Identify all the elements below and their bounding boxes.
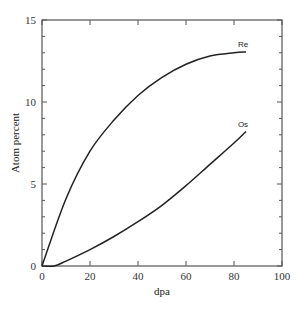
y-tick-label: 5	[31, 178, 37, 190]
series-label-os: Os	[238, 120, 248, 129]
y-axis-label: Atom percent	[9, 113, 21, 173]
x-tick-label: 40	[133, 270, 145, 282]
x-tick-label: 60	[181, 270, 193, 282]
x-axis-label: dpa	[154, 285, 170, 297]
series-line-os	[42, 132, 246, 267]
y-tick-label: 0	[31, 260, 37, 272]
series-labels: ReOs	[238, 40, 249, 129]
series-lines	[42, 52, 246, 266]
x-tick-label: 80	[229, 270, 241, 282]
x-tick-label: 0	[39, 270, 45, 282]
plot-border	[42, 20, 282, 266]
series-label-re: Re	[238, 40, 249, 49]
chart: 020406080100051015 ReOs dpa Atom percent	[0, 0, 303, 312]
x-tick-label: 100	[274, 270, 291, 282]
x-tick-label: 20	[85, 270, 97, 282]
tick-labels: 020406080100051015	[25, 14, 291, 282]
y-tick-label: 10	[25, 96, 37, 108]
axis-ticks	[42, 20, 282, 266]
plot-frame	[42, 20, 282, 266]
y-tick-label: 15	[25, 14, 37, 26]
